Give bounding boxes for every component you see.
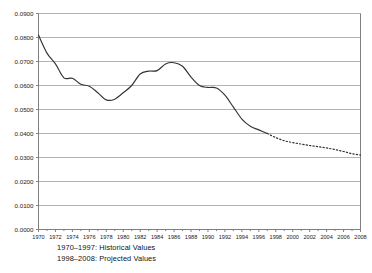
x-tick-label: 1974 [66, 234, 78, 240]
y-axis-tick-labels: 0.09000.08000.07000.06000.05000.04000.03… [15, 10, 34, 233]
y-tick-label: 0.0100 [15, 202, 34, 209]
legend: 1970–1997: Historical Values 1998–2008: … [57, 243, 156, 264]
x-tick-label: 1984 [151, 234, 163, 240]
y-tick-label: 0.0300 [15, 154, 34, 161]
x-tick-label: 1970 [32, 234, 44, 240]
y-tick-label: 0.0500 [15, 106, 34, 113]
y-tick-label: 0.0000 [15, 226, 34, 233]
x-tick-label: 1994 [236, 234, 248, 240]
x-tick-label: 1982 [134, 234, 146, 240]
legend-item-historical: 1970–1997: Historical Values [57, 243, 156, 254]
y-tick-label: 0.0800 [15, 34, 34, 41]
x-tick-label: 2002 [303, 234, 315, 240]
series-projected-line [267, 134, 360, 156]
x-tick-label: 1980 [117, 234, 129, 240]
y-tick-label: 0.0700 [15, 58, 34, 65]
x-axis-tick-labels: 1970197219741976197819801982198419861988… [32, 234, 366, 240]
x-tick-label: 1996 [253, 234, 265, 240]
x-tick-label: 1998 [270, 234, 282, 240]
chart-container: 0.09000.08000.07000.06000.05000.04000.03… [0, 0, 372, 273]
x-tick-label: 1978 [100, 234, 112, 240]
x-tick-label: 2004 [320, 234, 332, 240]
y-tick-label: 0.0400 [15, 130, 34, 137]
y-tick-label: 0.0600 [15, 82, 34, 89]
x-tick-label: 1988 [185, 234, 197, 240]
y-tick-label: 0.0200 [15, 178, 34, 185]
series-historical-line [39, 35, 268, 133]
x-tick-label: 1986 [168, 234, 180, 240]
x-tick-label: 1976 [83, 234, 95, 240]
x-tick-label: 2006 [337, 234, 349, 240]
y-tick-label: 0.0900 [15, 10, 34, 17]
x-tick-label: 2000 [286, 234, 298, 240]
legend-item-projected: 1998–2008: Projected Values [57, 254, 156, 265]
line-chart-plot: 0.09000.08000.07000.06000.05000.04000.03… [0, 0, 372, 273]
x-tick-label: 2008 [354, 234, 366, 240]
grid-lines [39, 14, 361, 206]
x-tick-label: 1972 [49, 234, 61, 240]
x-tick-label: 1992 [219, 234, 231, 240]
x-tick-label: 1990 [202, 234, 214, 240]
